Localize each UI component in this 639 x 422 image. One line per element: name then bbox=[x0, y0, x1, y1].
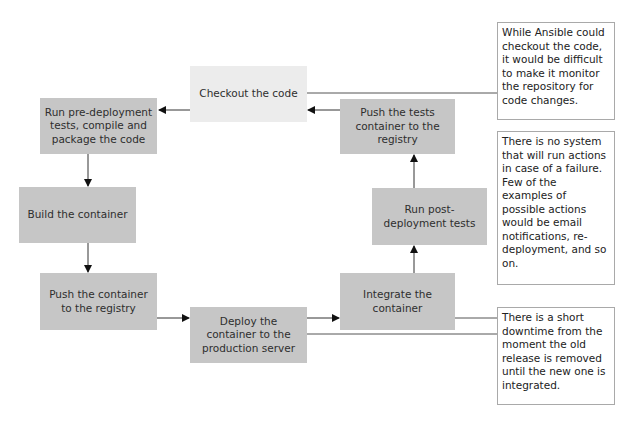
note-text: There is no system that will run actions… bbox=[502, 135, 606, 269]
note-downtime: There is a short downtime from the momen… bbox=[497, 307, 615, 405]
step-pre-deployment: Run pre-deployment tests, compile and pa… bbox=[40, 98, 157, 154]
step-label: Push the tests container to the registry bbox=[344, 106, 451, 147]
step-push-tests: Push the tests container to the registry bbox=[340, 99, 455, 154]
note-checkout: While Ansible could checkout the code, i… bbox=[497, 22, 615, 120]
step-build: Build the container bbox=[19, 187, 136, 243]
step-integrate: Integrate the container bbox=[340, 273, 455, 330]
step-push-container: Push the container to the registry bbox=[40, 273, 157, 330]
step-label: Deploy the container to the production s… bbox=[194, 315, 303, 356]
note-text: While Ansible could checkout the code, i… bbox=[502, 26, 605, 106]
step-label: Build the container bbox=[27, 208, 127, 222]
note-text: There is a short downtime from the momen… bbox=[502, 311, 605, 391]
step-checkout: Checkout the code bbox=[190, 66, 307, 122]
step-label: Run post-deployment tests bbox=[376, 203, 483, 230]
step-deploy: Deploy the container to the production s… bbox=[190, 307, 307, 363]
note-failure: There is no system that will run actions… bbox=[497, 131, 615, 285]
step-label: Integrate the container bbox=[344, 288, 451, 315]
step-label: Push the container to the registry bbox=[44, 288, 153, 315]
step-label: Run pre-deployment tests, compile and pa… bbox=[44, 106, 153, 147]
step-post-deployment: Run post-deployment tests bbox=[372, 188, 487, 245]
step-label: Checkout the code bbox=[199, 87, 297, 101]
